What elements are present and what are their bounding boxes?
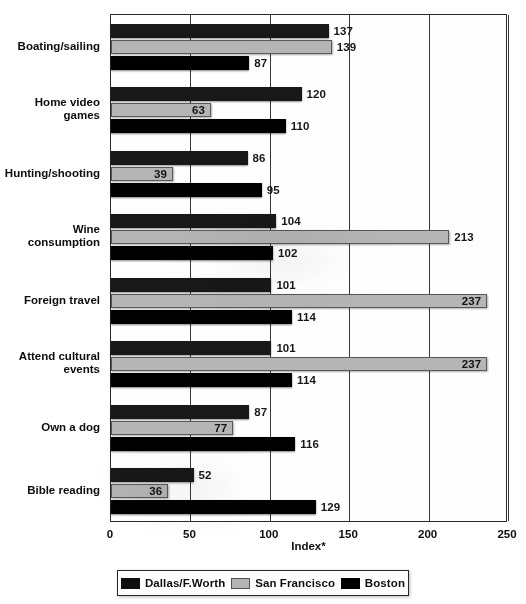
- bar-group: 101237114: [111, 333, 506, 397]
- bar-track: 87: [111, 405, 508, 419]
- bar-value-label: 101: [276, 342, 296, 354]
- bar-track: 39: [111, 167, 508, 181]
- bar-value-label: 102: [278, 247, 298, 259]
- legend-item[interactable]: Boston: [341, 577, 405, 589]
- legend-item[interactable]: Dallas/F.Worth: [121, 577, 225, 589]
- x-tick-150: 150: [339, 528, 358, 540]
- bar-boston-3: [111, 246, 273, 260]
- category-label: Bible reading: [0, 484, 104, 497]
- bar-boston-4: [111, 310, 292, 324]
- bar-value-label: 237: [462, 358, 482, 370]
- bar-group: 13713987: [111, 15, 506, 79]
- bar-boston-6: [111, 437, 295, 451]
- x-tick-50: 50: [183, 528, 196, 540]
- bar-dallas-f-worth-7: [111, 468, 194, 482]
- bar-value-label: 116: [300, 438, 319, 450]
- bar-group: 5236129: [111, 460, 506, 524]
- category-label: Hunting/shooting: [0, 166, 104, 179]
- bar-value-label: 52: [199, 469, 212, 481]
- legend-label: Boston: [365, 577, 405, 589]
- legend-label: Dallas/F.Worth: [145, 577, 225, 589]
- category-label: Home video games: [0, 96, 104, 122]
- bar-value-label: 237: [462, 295, 482, 307]
- bar-boston-5: [111, 373, 292, 387]
- bar-track: 114: [111, 310, 508, 324]
- bar-value-label: 114: [297, 311, 316, 323]
- legend-swatch-icon: [121, 578, 140, 589]
- bar-boston-2: [111, 183, 262, 197]
- bar-value-label: 95: [267, 184, 280, 196]
- bar-value-label: 213: [454, 231, 474, 243]
- category-label: Boating/sailing: [0, 39, 104, 52]
- bar-track: 139: [111, 40, 508, 54]
- bar-track: 129: [111, 500, 508, 514]
- bar-dallas-f-worth-0: [111, 24, 329, 38]
- bar-boston-1: [111, 119, 286, 133]
- bar-track: 104: [111, 214, 508, 228]
- bar-san-francisco-5: [111, 357, 487, 371]
- legend-swatch-icon: [231, 578, 250, 589]
- bar-track: 36: [111, 484, 508, 498]
- bar-value-label: 77: [214, 422, 227, 434]
- bar-track: 237: [111, 294, 508, 308]
- bar-track: 120: [111, 87, 508, 101]
- bar-value-label: 36: [149, 485, 162, 497]
- x-tick-100: 100: [259, 528, 278, 540]
- bar-value-label: 114: [297, 374, 316, 386]
- bar-san-francisco-3: [111, 230, 449, 244]
- bar-value-label: 39: [154, 168, 167, 180]
- category-label: Attend cultural events: [0, 350, 104, 376]
- plot-area: 1371398712063110863995104213102101237114…: [110, 14, 507, 522]
- bar-value-label: 137: [334, 25, 354, 37]
- bar-track: 116: [111, 437, 508, 451]
- bar-value-label: 104: [281, 215, 301, 227]
- legend-item[interactable]: San Francisco: [231, 577, 335, 589]
- bar-track: 63: [111, 103, 508, 117]
- bar-dallas-f-worth-6: [111, 405, 249, 419]
- x-tick-0: 0: [107, 528, 113, 540]
- legend-label: San Francisco: [255, 577, 335, 589]
- bar-track: 52: [111, 468, 508, 482]
- bar-value-label: 120: [307, 88, 327, 100]
- category-label: Wine consumption: [0, 223, 104, 249]
- bar-dallas-f-worth-3: [111, 214, 276, 228]
- bar-dallas-f-worth-2: [111, 151, 248, 165]
- bar-value-label: 87: [254, 406, 267, 418]
- bar-group: 863995: [111, 142, 506, 206]
- bar-value-label: 86: [253, 152, 266, 164]
- bar-dallas-f-worth-4: [111, 278, 271, 292]
- x-tick-200: 200: [418, 528, 437, 540]
- category-label: Foreign travel: [0, 293, 104, 306]
- bar-value-label: 110: [291, 120, 310, 132]
- bar-dallas-f-worth-5: [111, 341, 271, 355]
- bar-value-label: 87: [254, 57, 267, 69]
- bar-track: 86: [111, 151, 508, 165]
- category-axis-labels: Boating/sailingHome video gamesHunting/s…: [0, 14, 104, 522]
- bar-track: 101: [111, 341, 508, 355]
- bar-track: 237: [111, 357, 508, 371]
- bar-track: 114: [111, 373, 508, 387]
- gridline-250: [508, 15, 509, 521]
- bar-track: 137: [111, 24, 508, 38]
- bar-track: 110: [111, 119, 508, 133]
- bar-track: 77: [111, 421, 508, 435]
- x-axis-title: Index*: [110, 540, 507, 552]
- bar-group: 8777116: [111, 396, 506, 460]
- bar-track: 101: [111, 278, 508, 292]
- chart-page: Boating/sailingHome video gamesHunting/s…: [0, 0, 526, 604]
- bar-track: 213: [111, 230, 508, 244]
- bar-value-label: 139: [337, 41, 357, 53]
- bar-group: 104213102: [111, 206, 506, 270]
- bar-group: 12063110: [111, 79, 506, 143]
- bar-track: 102: [111, 246, 508, 260]
- bar-dallas-f-worth-1: [111, 87, 302, 101]
- bar-track: 95: [111, 183, 508, 197]
- bar-san-francisco-4: [111, 294, 487, 308]
- bar-boston-7: [111, 500, 316, 514]
- bar-value-label: 101: [276, 279, 296, 291]
- bar-track: 87: [111, 56, 508, 70]
- bar-boston-0: [111, 56, 249, 70]
- bar-san-francisco-0: [111, 40, 332, 54]
- legend-swatch-icon: [341, 578, 360, 589]
- bar-value-label: 129: [321, 501, 341, 513]
